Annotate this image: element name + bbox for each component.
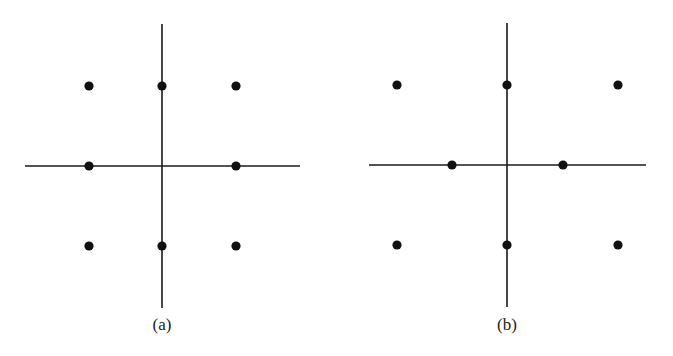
lattice-point: [613, 80, 622, 89]
lattice-point: [84, 161, 93, 170]
diagram-canvas: (a) (b): [0, 0, 673, 356]
lattice-point: [502, 240, 511, 249]
lattice-point: [392, 80, 401, 89]
panel-a-caption: (a): [153, 315, 172, 334]
lattice-point: [447, 160, 456, 169]
lattice-point: [231, 241, 240, 250]
lattice-point: [502, 80, 511, 89]
lattice-point: [558, 160, 567, 169]
lattice-point: [84, 241, 93, 250]
panel-a: (a): [25, 24, 300, 334]
lattice-point: [231, 81, 240, 90]
lattice-point: [84, 81, 93, 90]
lattice-point: [231, 161, 240, 170]
panel-b-caption: (b): [497, 315, 517, 334]
lattice-point: [392, 240, 401, 249]
lattice-point: [157, 81, 166, 90]
panel-b: (b): [369, 23, 646, 334]
lattice-point: [157, 241, 166, 250]
lattice-point: [613, 240, 622, 249]
